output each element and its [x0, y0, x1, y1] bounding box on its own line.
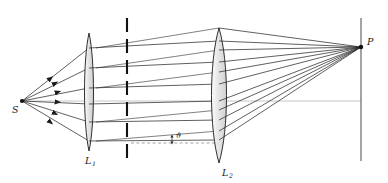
source-ray-2 — [22, 68, 89, 101]
source-ray-5 — [22, 101, 89, 122]
lens-L1 — [85, 33, 94, 151]
source-point-marker — [20, 99, 24, 103]
mid-ray-4 — [89, 101, 219, 104]
source-ray-3 — [22, 88, 89, 101]
converging-ray-bundle — [219, 28, 361, 140]
sec-ray-1 — [96, 28, 219, 48]
optics-ray-diagram: ϑ S L 1 L 2 P — [0, 0, 388, 183]
source-ray-fan — [22, 48, 89, 141]
sec-ray-2 — [96, 50, 219, 68]
lens1-label: L — [84, 155, 91, 166]
sec-ray-5 — [96, 131, 219, 141]
lens2-label: L — [221, 167, 228, 178]
source-ray-arrowheads — [44, 76, 61, 124]
arrowhead-6 — [44, 117, 53, 124]
lens2-subscript: 2 — [228, 172, 233, 179]
out-ray-7 — [219, 47, 361, 101]
angle-label: ϑ — [176, 132, 181, 140]
out-ray-11 — [219, 47, 361, 140]
image-point-marker — [359, 45, 363, 49]
source-label: S — [12, 104, 19, 115]
mid-ray-1 — [89, 41, 219, 48]
lens1-subscript: 1 — [92, 160, 96, 167]
source-ray-6 — [22, 101, 89, 141]
image-point-label: P — [366, 36, 374, 47]
diagram-canvas: ϑ S L 1 L 2 P — [0, 0, 388, 183]
source-ray-1 — [22, 48, 89, 101]
source-ray-4 — [22, 101, 89, 104]
mid-ray-2 — [89, 62, 219, 68]
collimated-ray-bundle — [89, 41, 219, 141]
mid-ray-3 — [89, 84, 219, 88]
out-ray-9 — [219, 47, 361, 120]
